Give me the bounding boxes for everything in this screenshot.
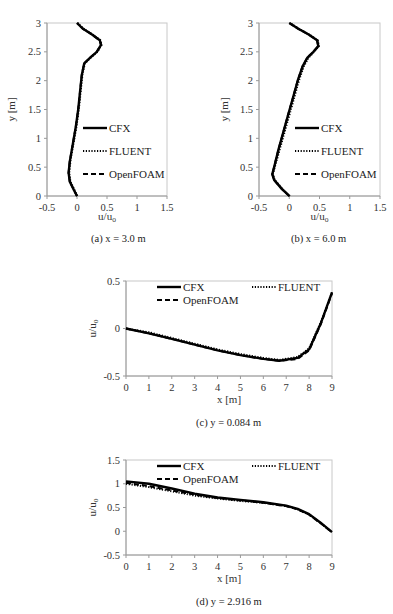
series-line-fluent xyxy=(126,484,332,532)
x-tick-label: 9 xyxy=(329,382,334,393)
x-tick-label: 0 xyxy=(74,202,79,213)
series-line-openfoam xyxy=(272,23,318,196)
y-tick-label: 1 xyxy=(248,133,253,144)
y-tick-label: 2.5 xyxy=(28,46,41,57)
y-tick-label: 0 xyxy=(115,526,120,537)
legend-label-fluent: FLUENT xyxy=(278,281,320,293)
chart-panel-d: 0123456789-0.500.511.5x [m]u/uoCFXFLUENT… xyxy=(86,455,335,609)
x-tick-label: 8 xyxy=(306,561,311,572)
legend-label-openfoam: OpenFOAM xyxy=(109,168,165,180)
y-axis-label: y [m] xyxy=(5,97,17,121)
x-tick-label: 3 xyxy=(192,561,197,572)
y-tick-label: 3 xyxy=(248,18,253,29)
y-tick-label: 0.5 xyxy=(28,162,41,173)
x-tick-label: 4 xyxy=(215,382,221,393)
y-tick-label: 0 xyxy=(248,191,253,202)
y-tick-label: 1 xyxy=(36,133,41,144)
x-tick-label: 6 xyxy=(261,382,266,393)
y-axis-label: u/uo xyxy=(86,319,100,337)
legend: CFXFLUENTOpenFOAM xyxy=(83,122,165,180)
x-tick-label: 1 xyxy=(146,382,151,393)
legend-label-openfoam: OpenFOAM xyxy=(183,473,239,485)
chart-panel-a: -0.500.511.500.511.522.53u/uoy [m]CFXFLU… xyxy=(5,18,174,246)
figure-canvas: -0.500.511.500.511.522.53u/uoy [m]CFXFLU… xyxy=(0,0,393,614)
series-line-fluent xyxy=(273,23,319,196)
panel-caption: (a) x = 3.0 m xyxy=(91,233,146,245)
y-tick-label: -0.5 xyxy=(103,371,120,382)
legend-label-cfx: CFX xyxy=(109,122,130,134)
y-tick-label: 2 xyxy=(36,75,41,86)
y-tick-label: 0 xyxy=(36,191,41,202)
x-tick-label: 0 xyxy=(123,561,128,572)
x-tick-label: 5 xyxy=(238,561,243,572)
legend-label-cfx: CFX xyxy=(321,122,342,134)
panel-caption: (b) x = 6.0 m xyxy=(291,233,346,245)
x-axis-label: x [m] xyxy=(217,393,241,405)
x-tick-label: -0.5 xyxy=(251,202,268,213)
legend-label-fluent: FLUENT xyxy=(278,460,320,472)
x-tick-label: 3 xyxy=(192,382,197,393)
y-axis-label: u/uo xyxy=(86,498,100,516)
x-tick-label: 2 xyxy=(169,561,174,572)
x-tick-label: 9 xyxy=(329,561,334,572)
y-tick-label: 0.5 xyxy=(240,162,253,173)
series-line-cfx xyxy=(69,23,101,196)
series-line-fluent xyxy=(69,23,101,196)
x-tick-label: 1 xyxy=(347,202,352,213)
panel-caption: (c) y = 0.084 m xyxy=(196,417,261,429)
y-tick-label: 0.5 xyxy=(107,502,120,513)
series-line-cfx xyxy=(272,23,318,196)
legend-label-fluent: FLUENT xyxy=(321,145,363,157)
y-tick-label: 1.5 xyxy=(107,455,120,466)
x-tick-label: 5 xyxy=(238,382,243,393)
x-tick-label: 7 xyxy=(284,561,289,572)
y-tick-label: 1.5 xyxy=(28,104,41,115)
x-axis-label: x [m] xyxy=(217,572,241,584)
y-tick-label: 3 xyxy=(36,18,41,29)
x-tick-label: 2 xyxy=(169,382,174,393)
x-tick-label: 7 xyxy=(284,382,289,393)
x-tick-label: 0 xyxy=(123,382,128,393)
legend-label-cfx: CFX xyxy=(183,460,204,472)
chart-panel-c: 0123456789-0.500.5x [m]u/uoCFXFLUENTOpen… xyxy=(86,276,335,430)
chart-panel-b: -0.500.511.500.511.522.53u/uoy [m]CFXFLU… xyxy=(218,18,387,246)
legend-label-cfx: CFX xyxy=(183,281,204,293)
legend: CFXFLUENTOpenFOAM xyxy=(157,460,320,485)
y-tick-label: 0.5 xyxy=(107,276,120,287)
y-tick-label: 1 xyxy=(115,478,120,489)
y-tick-label: 2 xyxy=(248,75,253,86)
x-tick-label: 8 xyxy=(306,382,311,393)
x-tick-label: 4 xyxy=(215,561,221,572)
x-tick-label: 6 xyxy=(261,561,266,572)
y-tick-label: -0.5 xyxy=(103,550,120,561)
legend: CFXFLUENTOpenFOAM xyxy=(295,122,377,180)
series-line-openfoam xyxy=(69,23,101,196)
x-tick-label: 1.5 xyxy=(373,202,386,213)
y-tick-label: 2.5 xyxy=(240,46,253,57)
legend-label-openfoam: OpenFOAM xyxy=(183,294,239,306)
legend: CFXFLUENTOpenFOAM xyxy=(157,281,320,306)
y-tick-label: 0 xyxy=(115,323,120,334)
legend-label-openfoam: OpenFOAM xyxy=(321,168,377,180)
y-axis-label: y [m] xyxy=(218,97,230,121)
x-tick-label: 0 xyxy=(287,202,292,213)
x-tick-label: 1.5 xyxy=(160,202,173,213)
y-tick-label: 1.5 xyxy=(240,104,253,115)
panel-caption: (d) y = 2.916 m xyxy=(196,596,262,608)
x-tick-label: -0.5 xyxy=(39,202,56,213)
legend-label-fluent: FLUENT xyxy=(109,145,151,157)
x-tick-label: 1 xyxy=(146,561,151,572)
x-tick-label: 1 xyxy=(134,202,139,213)
series-line-openfoam xyxy=(126,483,332,532)
